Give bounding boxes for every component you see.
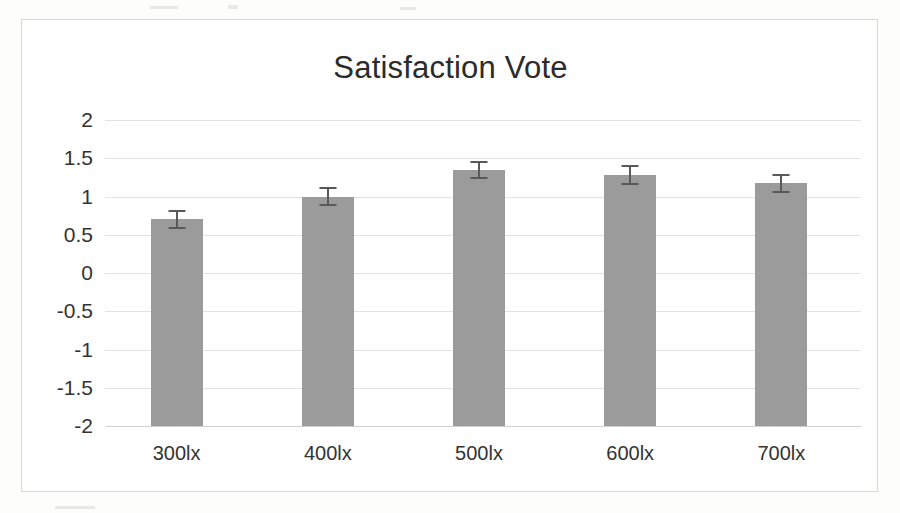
y-axis-tick-label: 0.5: [64, 223, 93, 247]
y-axis-tick-label: -0.5: [57, 299, 93, 323]
chart-title: Satisfaction Vote: [22, 50, 879, 86]
gridline: [105, 158, 861, 159]
y-axis-tick-label: 1.5: [64, 146, 93, 170]
bar: [151, 219, 203, 426]
scan-speckle-top-3: [400, 7, 416, 10]
y-axis-tick-label: -1.5: [57, 376, 93, 400]
gridline: [105, 426, 861, 427]
error-bar: [478, 161, 480, 179]
x-axis-tick-label: 500lx: [455, 442, 503, 465]
gridline: [105, 120, 861, 121]
y-axis-tick-label: 1: [81, 185, 93, 209]
y-axis-tick-label: -2: [74, 414, 93, 438]
x-axis-tick-label: 400lx: [304, 442, 352, 465]
page-background: Satisfaction Vote 21.510.50-0.5-1-1.5-23…: [0, 0, 900, 513]
error-bar: [629, 165, 631, 185]
plot-area: 21.510.50-0.5-1-1.5-2300lx400lx500lx600l…: [105, 120, 861, 426]
scan-speckle-top: [150, 6, 178, 9]
error-bar: [780, 174, 782, 194]
bar: [453, 170, 505, 426]
bar: [604, 175, 656, 426]
bar: [302, 197, 354, 427]
x-axis-tick-label: 700lx: [757, 442, 805, 465]
scan-speckle-top-2: [228, 5, 238, 9]
y-axis-tick-label: -1: [74, 338, 93, 362]
error-bar: [176, 210, 178, 230]
x-axis-tick-label: 600lx: [606, 442, 654, 465]
chart-figure-frame: Satisfaction Vote 21.510.50-0.5-1-1.5-23…: [21, 19, 878, 492]
error-bar: [327, 187, 329, 205]
y-axis-tick-label: 2: [81, 108, 93, 132]
scan-speckle-bottom: [55, 506, 95, 509]
y-axis-tick-label: 0: [81, 261, 93, 285]
x-axis-tick-label: 300lx: [153, 442, 201, 465]
bar: [755, 183, 807, 426]
